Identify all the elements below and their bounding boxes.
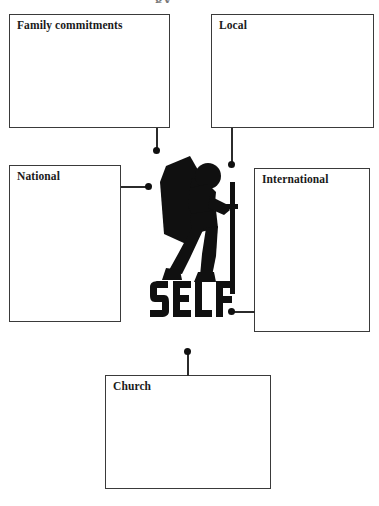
box-international-label: International	[262, 173, 328, 185]
box-international[interactable]: International	[254, 168, 370, 332]
cut-off-heading-fragment: gy	[155, 0, 215, 3]
box-family-commitments[interactable]: Family commitments	[9, 14, 170, 128]
connector-dot-church	[184, 348, 191, 355]
box-national-label: National	[17, 170, 60, 182]
connector-church-to-self	[187, 352, 189, 376]
box-family-commitments-label: Family commitments	[17, 19, 123, 31]
diagram-canvas: gy Family commitments Local National Int…	[0, 0, 379, 506]
hiker-with-backpack-icon	[146, 148, 244, 298]
box-local-label: Local	[219, 19, 247, 31]
box-church[interactable]: Church	[105, 375, 271, 489]
self-wordmark	[148, 281, 234, 317]
box-national[interactable]: National	[9, 165, 121, 322]
box-church-label: Church	[113, 380, 151, 392]
box-local[interactable]: Local	[211, 14, 374, 128]
